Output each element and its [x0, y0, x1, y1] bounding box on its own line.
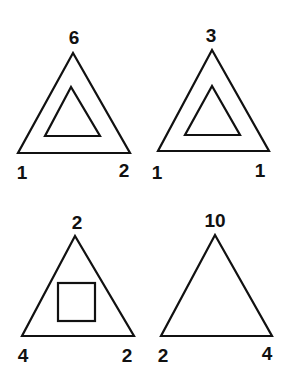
- right-number: 4: [262, 343, 273, 364]
- outer-triangle: [161, 235, 272, 336]
- puzzle-diagram: 6 1 2 3 1 1 2 4 2 10 2 4: [0, 0, 290, 386]
- panel-1: 6 1 2: [17, 27, 130, 183]
- right-number: 2: [119, 160, 130, 181]
- panel-2: 3 1 1: [152, 25, 269, 183]
- inner-square: [58, 283, 95, 321]
- panel-3: 2 4 2: [18, 212, 134, 366]
- left-number: 2: [158, 345, 169, 366]
- left-number: 4: [18, 345, 29, 366]
- right-number: 1: [255, 160, 266, 181]
- left-number: 1: [17, 162, 28, 183]
- top-number: 2: [72, 212, 83, 233]
- inner-triangle: [45, 87, 100, 136]
- outer-triangle: [18, 53, 130, 153]
- left-number: 1: [152, 162, 163, 183]
- top-number: 3: [206, 25, 217, 46]
- top-number: 6: [69, 27, 80, 48]
- top-number: 10: [204, 210, 225, 231]
- right-number: 2: [122, 345, 133, 366]
- inner-triangle: [185, 86, 240, 135]
- panel-4: 10 2 4: [158, 210, 273, 366]
